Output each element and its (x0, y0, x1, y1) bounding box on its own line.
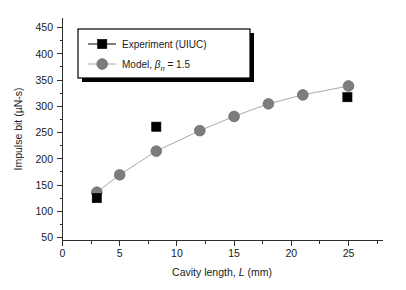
y-tick-label: 300 (35, 100, 53, 112)
x-tick-label: 10 (171, 247, 183, 259)
chart-legend: Experiment (UIUC) Model, βn = 1.5 (78, 29, 254, 82)
y-tick-label: 250 (35, 126, 53, 138)
x-axis-title-post: (mm) (244, 266, 271, 278)
x-tick-label: 25 (343, 247, 355, 259)
model-data-point (297, 90, 308, 101)
chart-container: 450 400 350 300 250 200 150 100 50 Impul… (0, 0, 406, 290)
model-data-point (114, 169, 125, 180)
y-tick-label: 400 (35, 48, 53, 60)
model-data-point (263, 98, 274, 109)
legend-label-experiment: Experiment (UIUC) (122, 39, 206, 50)
legend-label-model-post: = 1.5 (165, 59, 191, 70)
y-tick-label: 100 (35, 205, 53, 217)
experiment-data-point (343, 93, 352, 102)
experiment-data-point (92, 194, 101, 203)
legend-entry-experiment[interactable]: Experiment (UIUC) (88, 39, 206, 50)
y-tick-label: 450 (35, 21, 53, 33)
y-tick-label: 350 (35, 74, 53, 86)
legend-marker-circle-icon (97, 59, 108, 70)
x-tick-label: 5 (117, 247, 123, 259)
x-tick-label: 0 (60, 247, 66, 259)
x-axis-title-pre: Cavity length, (172, 266, 239, 278)
x-tick-label: 15 (228, 247, 240, 259)
x-tick-label: 20 (285, 247, 297, 259)
model-data-point (343, 81, 354, 92)
y-tick-label: 50 (41, 231, 53, 243)
legend-marker-square-icon (98, 39, 107, 48)
y-tick-label: 200 (35, 153, 53, 165)
model-data-point (194, 125, 205, 136)
impulse-bit-vs-cavity-length-chart: 450 400 350 300 250 200 150 100 50 Impul… (0, 0, 406, 290)
experiment-data-point (152, 122, 161, 131)
y-axis-title: Impulse bit (µN-s) (12, 87, 24, 170)
legend-label-model-pre: Model, (122, 59, 155, 70)
y-tick-label: 150 (35, 179, 53, 191)
model-data-point (151, 146, 162, 157)
model-data-point (229, 111, 240, 122)
x-axis-title: Cavity length, L (mm) (172, 266, 272, 278)
